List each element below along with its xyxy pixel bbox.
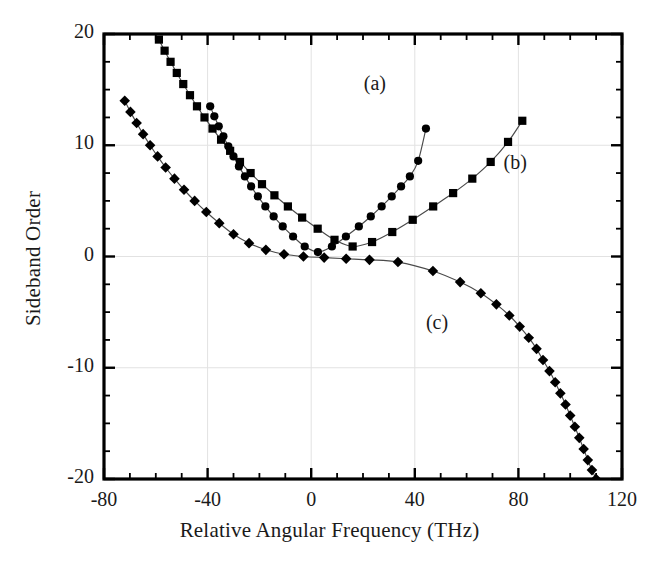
- curve-label-c: (c): [426, 311, 448, 334]
- curve-label-a: (a): [364, 72, 386, 95]
- x-tick-label: 80: [478, 488, 558, 511]
- x-tick-label: -40: [168, 488, 248, 511]
- y-tick-label: 0: [12, 243, 94, 266]
- y-tick-label: 20: [12, 20, 94, 43]
- plot-canvas: [0, 0, 659, 569]
- x-axis-title: Relative Angular Frequency (THz): [0, 518, 659, 543]
- gridlines: [104, 34, 622, 479]
- x-tick-label: 40: [375, 488, 455, 511]
- y-tick-label: 10: [12, 131, 94, 154]
- y-tick-label: -20: [12, 465, 94, 488]
- chart-figure: Relative Angular Frequency (THz) Sideban…: [0, 0, 659, 569]
- curve-label-b: (b): [504, 151, 527, 174]
- x-tick-label: -80: [64, 488, 144, 511]
- x-tick-label: 0: [271, 488, 351, 511]
- y-tick-label: -10: [12, 354, 94, 377]
- x-tick-label: 120: [582, 488, 659, 511]
